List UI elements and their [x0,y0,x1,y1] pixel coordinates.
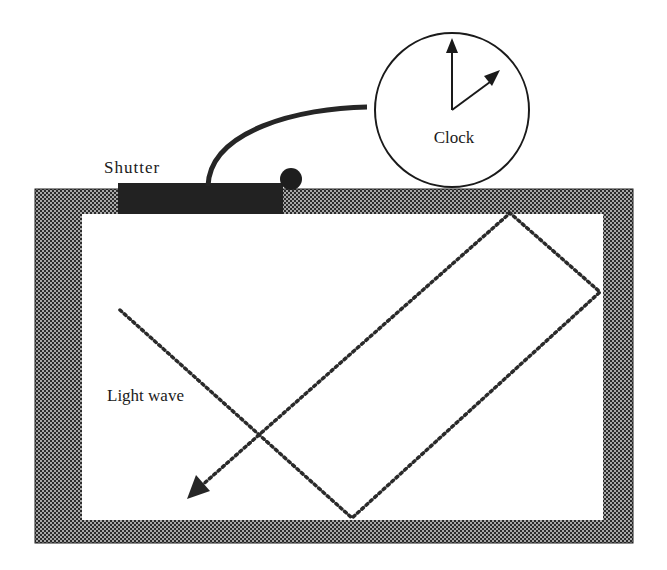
shutter-label: Shutter [104,158,160,177]
chamber-interior [82,214,603,520]
shutter-knob [280,168,302,190]
diagram-canvas: Shutter Clock Light wave [0,0,667,570]
light-wave-label: Light wave [107,386,184,405]
clock [375,33,529,187]
clock-label: Clock [434,128,475,147]
